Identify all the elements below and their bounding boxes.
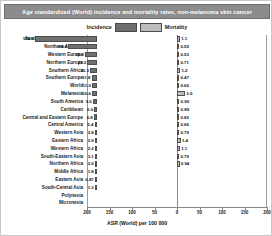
- mortality-value: 0.79: [179, 130, 190, 135]
- mortality-value: 1.4: [181, 138, 189, 143]
- mortality-group: 0.53: [177, 51, 190, 59]
- incidence-value: 2.0: [87, 161, 95, 166]
- mortality-value: 0.90: [179, 99, 190, 104]
- incidence-value: 2.2: [87, 146, 95, 151]
- category-label: South-Central Asia: [1, 183, 85, 191]
- category-label: Central America: [1, 121, 85, 129]
- incidence-value: 11.0: [81, 83, 92, 88]
- incidence-group: 26.1: [74, 51, 97, 59]
- incidence-value: 15.3: [79, 68, 90, 73]
- axis-tick-label: 100: [128, 210, 136, 215]
- legend-swatch-mortality: [140, 23, 162, 32]
- incidence-value: 3.1: [87, 154, 95, 159]
- mortality-value: 0.53: [179, 52, 190, 57]
- mortality-value: 1.1: [180, 146, 188, 151]
- incidence-group: 2.0: [87, 160, 97, 168]
- page-title: Age standardized (World) incidence and m…: [22, 9, 252, 15]
- table-row: South-Central Asia1.3: [1, 183, 272, 191]
- mortality-value: 0.60: [179, 83, 190, 88]
- incidence-group: 21.2: [77, 58, 97, 66]
- table-row: Southern Africa15.31.2: [1, 66, 272, 74]
- incidence-bar: [95, 185, 97, 190]
- incidence-value: 1.8: [87, 169, 95, 174]
- table-row: Eastern Asia0.87: [1, 176, 272, 184]
- table-row: Eastern Africa2.91.4: [1, 137, 272, 145]
- incidence-group: 11.8: [81, 74, 97, 82]
- table-row: South-Eastern Asia3.10.79: [1, 152, 272, 160]
- axis-tick-label: 50: [152, 210, 157, 215]
- incidence-value: 11.8: [81, 75, 92, 80]
- category-label: Western Asia: [1, 129, 85, 137]
- chart-figure: Age standardized (World) incidence and m…: [0, 0, 272, 236]
- category-label: Middle Africa: [1, 168, 85, 176]
- table-row: Northern Europe21.20.71: [1, 58, 272, 66]
- table-row: Central and Eastern Europe6.80.82: [1, 113, 272, 121]
- incidence-bar: [68, 44, 97, 49]
- axis-tick-label: 100: [218, 210, 226, 215]
- table-row: Western Africa2.21.1: [1, 144, 272, 152]
- incidence-value: 26.1: [74, 52, 85, 57]
- table-row: Central America5.40.66: [1, 121, 272, 129]
- incidence-bar: [95, 130, 97, 135]
- category-label: Western Europe: [1, 51, 85, 59]
- mortality-group: 0.94: [177, 160, 190, 168]
- mortality-group: 1.2: [177, 66, 189, 74]
- legend-label-incidence: Incidence: [87, 24, 112, 30]
- mortality-group: 0.82: [177, 113, 190, 121]
- mortality-group: 3.0: [177, 90, 194, 98]
- table-row: Caribbean6.00.89: [1, 105, 272, 113]
- incidence-group: 1.8: [87, 168, 97, 176]
- incidence-bar: [95, 169, 97, 174]
- mortality-group: 0.66: [177, 121, 190, 129]
- table-row: Melanesia10.63.0: [1, 90, 272, 98]
- table-row: Northern Africa2.00.94: [1, 160, 272, 168]
- mortality-value: 3.0: [185, 91, 193, 96]
- incidence-bar: [92, 91, 97, 96]
- mortality-value: 0.89: [179, 107, 190, 112]
- incidence-value: 5.4: [86, 122, 94, 127]
- incidence-group: 6.0: [86, 105, 97, 113]
- mortality-group: 0.79: [177, 152, 190, 160]
- table-row: Middle Africa1.8: [1, 168, 272, 176]
- x-axis-label: ASR (World) per 100 000: [1, 220, 272, 226]
- mortality-value: 0.94: [180, 161, 191, 166]
- mortality-group: 0.89: [177, 105, 190, 113]
- mortality-value: 0.59: [179, 44, 190, 49]
- table-row: Micronesia: [1, 199, 272, 207]
- incidence-value: 21.2: [77, 60, 88, 65]
- incidence-bar: [92, 83, 97, 88]
- mortality-value: 0.66: [179, 122, 190, 127]
- category-label: Central and Eastern Europe: [1, 113, 85, 121]
- incidence-group: 2.2: [87, 144, 97, 152]
- incidence-group: 15.3: [79, 66, 97, 74]
- axis-tick-label: 150: [106, 210, 114, 215]
- incidence-bar: [93, 99, 97, 104]
- mortality-value: 1.1: [180, 36, 188, 41]
- mortality-value: 0.71: [179, 60, 190, 65]
- table-row: Polynesia: [1, 191, 272, 199]
- category-label: Eastern Africa: [1, 137, 85, 145]
- category-label: World: [1, 82, 85, 90]
- incidence-bar: [95, 161, 97, 166]
- mortality-bar: [177, 91, 185, 96]
- mortality-group: 0.59: [177, 43, 190, 51]
- mortality-value: 1.2: [180, 68, 188, 73]
- table-row: World11.00.60: [1, 82, 272, 90]
- incidence-bar: [95, 146, 97, 151]
- incidence-group: 11.0: [81, 82, 97, 90]
- incidence-bar: [95, 122, 97, 127]
- incidence-value: 9.0: [84, 99, 92, 104]
- incidence-bar: [90, 68, 97, 73]
- legend-label-mortality: Mortality: [165, 24, 187, 30]
- category-label: Western Africa: [1, 144, 85, 152]
- table-row: South America9.00.90: [1, 98, 272, 106]
- incidence-value: 6.8: [85, 115, 93, 120]
- incidence-value: 10.6: [81, 91, 92, 96]
- category-label: South-Eastern Asia: [1, 152, 85, 160]
- incidence-value: 2.9: [87, 138, 95, 143]
- incidence-value: 6.0: [86, 107, 94, 112]
- table-row: Western Asia3.80.79: [1, 129, 272, 137]
- category-label: Southern Africa: [1, 66, 85, 74]
- mortality-value: 0.79: [179, 154, 190, 159]
- table-row: Northern America64.40.59: [1, 43, 272, 51]
